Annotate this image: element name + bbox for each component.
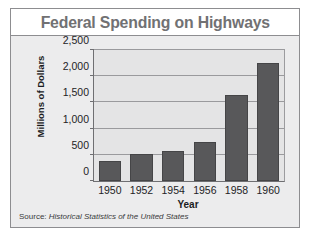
x-tick-label: 1954 [161, 185, 184, 196]
plot-area: 05001,0001,5002,0002,500 195019521954195… [93, 49, 285, 182]
bar [225, 95, 247, 181]
x-tick-label: 1956 [193, 185, 216, 196]
bar [257, 63, 279, 181]
x-tick-label: 1960 [256, 185, 279, 196]
y-tick-label: 2,000 [63, 61, 89, 72]
y-tick-label: 1,000 [63, 113, 89, 124]
page-title: Federal Spending on Highways [40, 14, 269, 31]
source-label: Source: [19, 212, 47, 221]
x-tick-label: 1952 [130, 185, 153, 196]
y-tick-label: 0 [83, 166, 89, 177]
y-tick-label: 1,500 [63, 87, 89, 98]
bar [99, 161, 121, 181]
x-axis-title: Year [93, 199, 283, 210]
bar-series [94, 50, 284, 181]
source-value: Historical Statistics of the United Stat… [49, 212, 189, 221]
y-tick-label: 2,500 [63, 35, 89, 46]
chart-body: Millions of Dollars 05001,0001,5002,0002… [11, 36, 299, 227]
y-axis-title: Millions of Dollars [35, 42, 46, 152]
bar [130, 154, 152, 181]
bar [194, 142, 216, 181]
chart-figure: Federal Spending on Highways Millions of… [10, 8, 300, 228]
source-note: Source: Historical Statistics of the Uni… [19, 212, 188, 221]
x-tick-label: 1958 [225, 185, 248, 196]
x-tick-label: 1950 [98, 185, 121, 196]
y-tick-label: 500 [71, 140, 89, 151]
bar [162, 151, 184, 181]
chart-title-band: Federal Spending on Highways [11, 9, 299, 36]
